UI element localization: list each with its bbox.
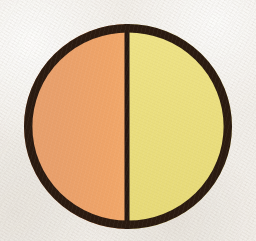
vertical-divider [125,0,130,241]
circle-interior [0,0,256,241]
figure-canvas [0,0,256,241]
divided-circle-figure [0,0,256,241]
